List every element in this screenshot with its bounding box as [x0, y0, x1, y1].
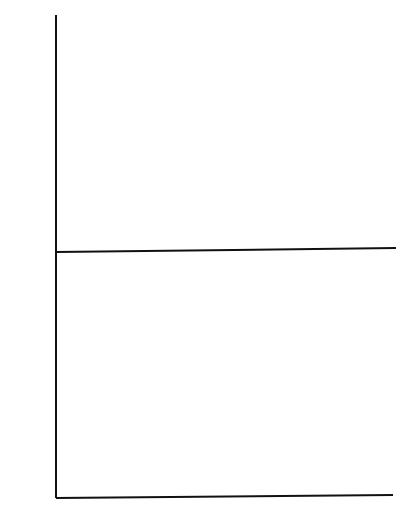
panel-divider-line [56, 248, 396, 252]
x-axis-line [56, 495, 393, 498]
chart-canvas [0, 0, 404, 530]
